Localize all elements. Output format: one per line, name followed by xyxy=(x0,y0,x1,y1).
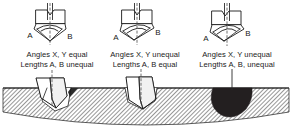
case-1-point-diagram: A B xyxy=(27,3,72,45)
case-2-caption-line2: Lengths A, B equal xyxy=(113,60,178,69)
case-2-caption-line1: Angles X, Y unequal xyxy=(110,50,180,59)
case-1-caption-line2: Lengths A, B unequal xyxy=(20,60,93,69)
case-2-point-diagram: A B xyxy=(113,3,160,45)
case-3-drill-shank xyxy=(212,11,241,25)
case-1-caption-line1: Angles X, Y equal xyxy=(27,50,88,59)
case-1-label-a: A xyxy=(27,31,33,40)
case-2-label-b: B xyxy=(155,28,160,37)
case-3-label-b: B xyxy=(245,29,250,38)
case-3-caption-line2: Lengths A, B, unequal xyxy=(199,60,275,69)
drill-point-geometry-figure: A B Angles X, Y equal Lengths A, B unequ… xyxy=(0,0,292,139)
case-2-hole-section xyxy=(125,69,157,109)
case-3-label-a: A xyxy=(203,34,209,43)
figure-canvas: A B Angles X, Y equal Lengths A, B unequ… xyxy=(0,0,292,139)
case-2-caption: Angles X, Y unequal Lengths A, B equal xyxy=(110,50,180,69)
case-2-label-a: A xyxy=(113,33,119,42)
case-3-point-diagram: A B xyxy=(203,3,250,46)
case-3-caption: Angles X, Y unequal Lengths A, B, unequa… xyxy=(199,50,275,69)
case-1-drill-shank xyxy=(36,10,65,24)
case-1-label-b: B xyxy=(67,32,72,41)
case-3-caption-line1: Angles X, Y unequal xyxy=(202,50,272,59)
case-1-caption: Angles X, Y equal Lengths A, B unequal xyxy=(20,50,93,69)
